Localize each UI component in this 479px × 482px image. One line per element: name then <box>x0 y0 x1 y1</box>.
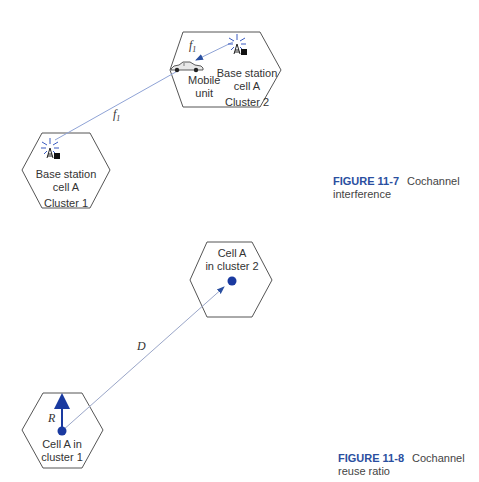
cluster-label: Cluster 2 <box>214 96 280 109</box>
cell-a-cluster2-label: Cell A in cluster 2 <box>200 247 264 273</box>
base-station-cluster1-label: Base station cell A Cluster 1 <box>30 168 102 210</box>
base-station-cluster2-label: Base station cell A Cluster 2 <box>214 67 280 109</box>
cell-a-cluster1-label: Cell A in cluster 1 <box>30 438 94 464</box>
radius-label: R <box>48 411 55 426</box>
base-station-line2: cell A <box>30 181 102 194</box>
frequency-label-path: f1 <box>113 107 120 123</box>
figure-number: FIGURE 11-8 <box>338 452 404 464</box>
base-station-line1: Base station <box>30 168 102 181</box>
antenna-tower-icon <box>228 34 247 55</box>
car-icon <box>171 62 203 72</box>
caption-text-line2: interference <box>333 188 460 201</box>
base-station-line1: Base station <box>214 67 280 80</box>
freq-subscript: 1 <box>192 45 196 54</box>
frequency-label-cluster2: f1 <box>189 38 196 54</box>
antenna-tower-icon <box>41 138 60 159</box>
cell-label-line2: cluster 1 <box>30 451 94 464</box>
cell-center-dot-cluster2 <box>228 277 237 286</box>
figure-11-8-caption: FIGURE 11-8Cochannel reuse ratio <box>338 452 479 478</box>
cell-label-line1: Cell A <box>200 247 264 260</box>
serving-signal-line <box>196 42 233 60</box>
figure-11-7-caption: FIGURE 11-7Cochannel interference <box>333 175 460 201</box>
base-station-line2: cell A <box>214 80 280 93</box>
reuse-distance-line <box>62 287 224 431</box>
caption-text: Cochannel <box>407 175 460 187</box>
interference-signal-line <box>55 64 190 140</box>
figure-number: FIGURE 11-7 <box>333 175 399 187</box>
distance-label: D <box>137 339 146 354</box>
cell-label-line2: in cluster 2 <box>200 260 264 273</box>
cell-label-line1: Cell A in <box>30 438 94 451</box>
freq-subscript: 1 <box>116 114 120 123</box>
cluster-label: Cluster 1 <box>30 197 102 210</box>
cell-center-dot-cluster1 <box>58 427 67 436</box>
